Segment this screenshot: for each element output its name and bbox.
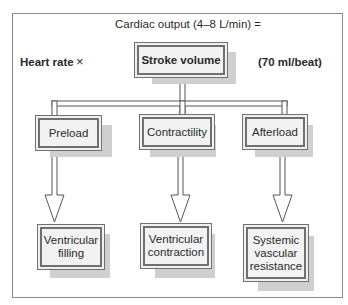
contractility-label: Contractility [142, 117, 212, 147]
arrow-down-icon [45, 150, 64, 222]
stroke-volume-box: Stroke volume [134, 42, 228, 78]
effect-box-ventricular-contraction: Ventricularcontraction [140, 223, 212, 269]
preload-label: Preload [38, 118, 99, 148]
arrow-down-icon [171, 150, 190, 222]
ventricular-filling-label: Ventricularfilling [40, 227, 102, 267]
ventricular-contraction-label: Ventricularcontraction [143, 226, 209, 266]
determinant-box-contractility: Contractility [139, 114, 215, 150]
systemic-vascular-resistance-label: Systemicvascularresistance [246, 227, 306, 279]
determinant-box-afterload: Afterload [242, 114, 308, 150]
afterload-label: Afterload [245, 117, 305, 147]
determinant-box-preload: Preload [35, 115, 102, 151]
arrow-down-icon [273, 150, 292, 222]
stroke-volume-label: Stroke volume [137, 45, 225, 75]
arrows [45, 150, 292, 222]
effect-box-ventricular-filling: Ventricularfilling [37, 224, 105, 270]
effect-box-systemic-vascular-resistance: Systemicvascularresistance [243, 224, 309, 282]
